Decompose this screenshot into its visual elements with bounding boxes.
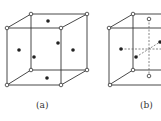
figure-label-b: (b) bbox=[140, 100, 153, 110]
cube-b-corner-atoms bbox=[107, 12, 151, 87]
crystal-lattice-diagram bbox=[0, 0, 161, 121]
figure-label-a: (a) bbox=[36, 100, 48, 110]
cube-b bbox=[109, 14, 161, 85]
cube-b-atoms bbox=[119, 40, 161, 59]
